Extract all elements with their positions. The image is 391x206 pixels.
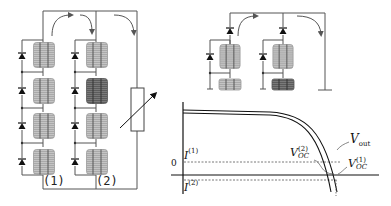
variable-resistor <box>120 88 155 131</box>
voc1-sub: OC <box>356 164 367 171</box>
voc1-base: V <box>348 157 356 170</box>
string-2-label: (2) <box>96 174 118 188</box>
vout-base: V <box>350 132 359 146</box>
zero-label: 0 <box>171 159 177 168</box>
voc2-base: V <box>290 146 298 159</box>
iv-plot <box>171 102 379 196</box>
bypass-diodes <box>18 52 79 166</box>
current-label-1: I(1) <box>184 149 198 161</box>
current-label-2-sup: (2) <box>188 179 198 187</box>
voc2-sub: OC <box>298 153 309 160</box>
voc1-label: V(1)OC <box>348 157 367 171</box>
current-flow-arrows <box>52 15 134 36</box>
vout-sub: out <box>359 140 371 148</box>
voc2-label: V(2)OC <box>290 146 309 160</box>
top-right-cells <box>219 44 294 90</box>
current-label-2: I(2) <box>184 181 198 193</box>
current-label-1-sup: (1) <box>188 147 198 155</box>
string-1-label: (1) <box>43 174 65 188</box>
vout-label: Vout <box>350 133 370 148</box>
